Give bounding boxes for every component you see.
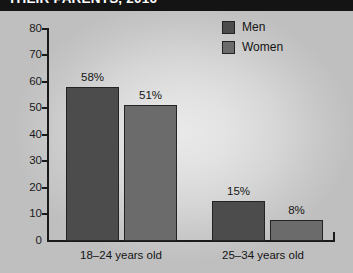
y-axis-label: 60 bbox=[2, 76, 42, 87]
plot-area: 80 70 60 50 40 30 20 10 0 58% 51% 15% 8%… bbox=[0, 11, 353, 273]
legend-swatch-women-icon bbox=[222, 41, 235, 54]
y-tick-mark bbox=[42, 213, 47, 215]
y-tick-mark bbox=[42, 81, 47, 83]
y-axis-label: 70 bbox=[2, 49, 42, 60]
legend-label-men: Men bbox=[242, 20, 265, 34]
page-title: THEIR PARENTS, 2016 bbox=[8, 0, 157, 6]
y-axis-label: 50 bbox=[2, 102, 42, 113]
y-tick-mark bbox=[42, 28, 47, 30]
y-tick-mark bbox=[42, 134, 47, 136]
bar-men-25-34[interactable] bbox=[212, 201, 265, 241]
y-tick-mark bbox=[42, 54, 47, 56]
bar-women-25-34[interactable] bbox=[270, 220, 323, 241]
bar-value-label: 58% bbox=[66, 71, 119, 83]
y-axis-label: 20 bbox=[2, 182, 42, 193]
y-tick-mark bbox=[42, 187, 47, 189]
legend-label-women: Women bbox=[242, 40, 283, 54]
bar-value-label: 15% bbox=[212, 185, 265, 197]
y-axis-line bbox=[47, 28, 49, 241]
bar-women-18-24[interactable] bbox=[124, 105, 177, 241]
category-label-18-24: 18–24 years old bbox=[50, 249, 192, 261]
chart-title-bar: THEIR PARENTS, 2016 bbox=[0, 0, 353, 11]
y-axis-label: 30 bbox=[2, 155, 42, 166]
chart-figure: THEIR PARENTS, 2016 80 70 60 50 40 30 20… bbox=[0, 0, 353, 273]
y-axis-label: 10 bbox=[2, 208, 42, 219]
y-tick-mark bbox=[42, 107, 47, 109]
bar-value-label: 51% bbox=[124, 89, 177, 101]
category-label-25-34: 25–34 years old bbox=[192, 249, 334, 261]
legend: Men Women bbox=[222, 18, 283, 58]
bar-men-18-24[interactable] bbox=[66, 87, 119, 241]
y-tick-mark bbox=[42, 160, 47, 162]
legend-item-women[interactable]: Women bbox=[222, 38, 283, 56]
bar-value-label: 8% bbox=[270, 204, 323, 216]
y-axis-label: 0 bbox=[2, 235, 42, 246]
legend-swatch-men-icon bbox=[222, 21, 235, 34]
legend-item-men[interactable]: Men bbox=[222, 18, 283, 36]
x-axis-end-tick bbox=[333, 232, 335, 242]
y-axis-label: 40 bbox=[2, 129, 42, 140]
y-axis-label: 80 bbox=[2, 23, 42, 34]
